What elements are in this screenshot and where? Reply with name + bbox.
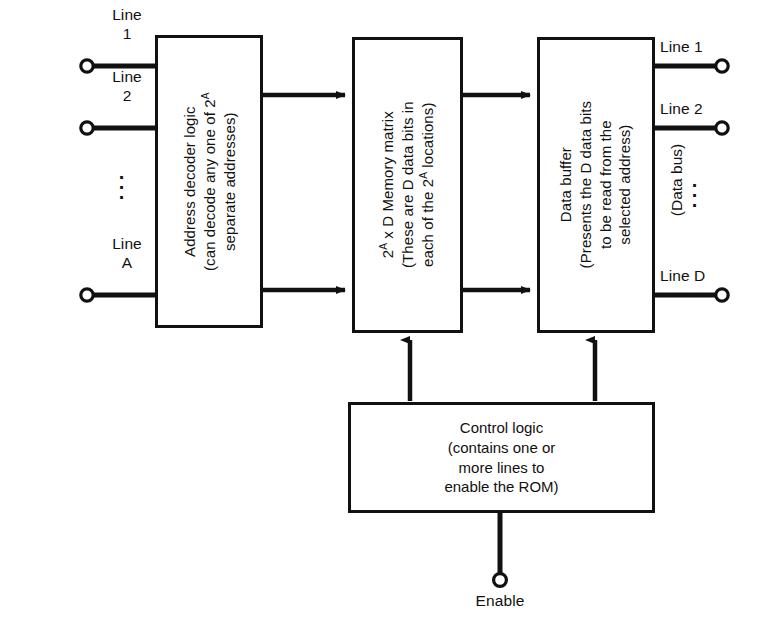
block-data-buffer-text: Data buffer (Presents the D data bits to…	[556, 101, 635, 269]
decoder-to-memory-arrows	[263, 95, 345, 290]
control-to-blocks-arrows	[410, 340, 595, 401]
block-data-buffer[interactable]: Data buffer (Presents the D data bits to…	[537, 37, 655, 333]
block-memory-matrix[interactable]: 2A x D Memory matrix (These are D data b…	[352, 37, 463, 333]
address-terminal-a-label: Line A	[97, 235, 157, 272]
data-terminal-d-label: Line D	[660, 267, 732, 286]
block-address-decoder-text: Address decoder logic (can decode any on…	[179, 92, 238, 271]
block-control-logic[interactable]: Control logic (contains one or more line…	[348, 402, 655, 513]
data-terminal-1-label: Line 1	[660, 38, 732, 57]
address-bus-ellipsis: · · ·	[107, 172, 137, 202]
data-bus-label: (Data bus)	[667, 105, 687, 255]
rom-block-diagram: Address bus (said to be A bits wide) Lin…	[0, 0, 777, 627]
address-terminal-2-label: Line 2	[97, 68, 157, 105]
data-bus-terminals	[716, 60, 728, 301]
block-memory-matrix-text: 2A x D Memory matrix (These are D data b…	[378, 102, 437, 269]
enable-label: Enable	[450, 592, 550, 611]
address-terminal-1-label: Line 1	[97, 6, 157, 43]
address-bus-terminals	[81, 60, 93, 301]
enable-terminal	[494, 574, 507, 587]
block-control-logic-text: Control logic (contains one or more line…	[444, 418, 558, 497]
block-address-decoder[interactable]: Address decoder logic (can decode any on…	[155, 35, 263, 328]
memory-to-buffer-arrows	[463, 95, 530, 290]
